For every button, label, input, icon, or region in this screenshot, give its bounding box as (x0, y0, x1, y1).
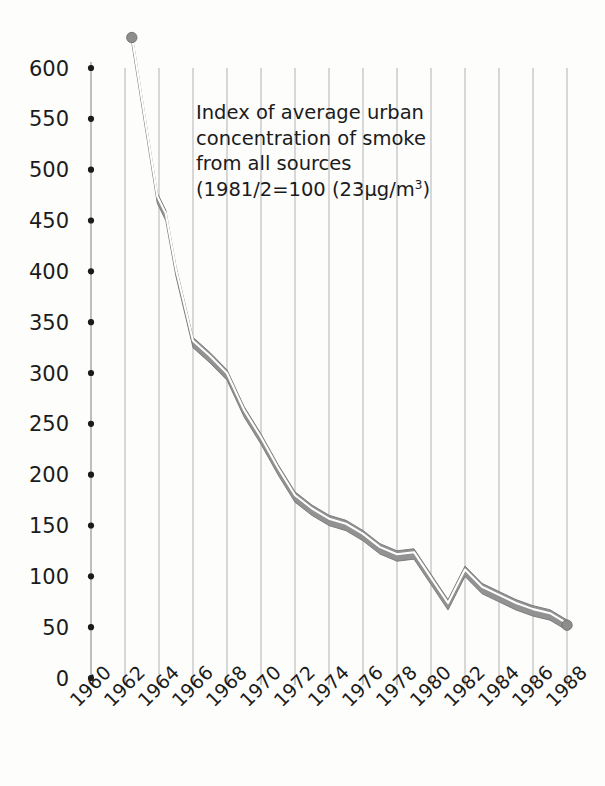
y-tick-dot-50 (88, 624, 94, 630)
y-tick-label-150: 150 (29, 514, 69, 538)
y-tick-dot-250 (88, 421, 94, 427)
y-tick-label-600: 600 (29, 57, 69, 81)
chart-root: 600550500450400350300250200150100500 196… (0, 0, 605, 786)
y-tick-label-550: 550 (29, 107, 69, 131)
y-tick-dot-200 (88, 472, 94, 478)
y-tick-dot-350 (88, 319, 94, 325)
y-tick-dot-500 (88, 167, 94, 173)
y-tick-label-50: 50 (42, 616, 69, 640)
y-tick-label-300: 300 (29, 362, 69, 386)
series-start-cap (127, 32, 137, 42)
y-tick-label-450: 450 (29, 209, 69, 233)
series-end-cap (562, 620, 572, 630)
y-tick-dot-450 (88, 217, 94, 223)
y-tick-label-350: 350 (29, 311, 69, 335)
y-tick-label-200: 200 (29, 463, 69, 487)
annotation-line-4: (1981/2=100 (23μg/m3) (196, 178, 430, 201)
annotation-line-1: Index of average urban (196, 101, 424, 124)
y-tick-dot-600 (88, 65, 94, 71)
annotation-line-3: from all sources (196, 152, 351, 175)
y-tick-dot-150 (88, 522, 94, 528)
y-tick-dot-100 (88, 573, 94, 579)
y-tick-label-400: 400 (29, 260, 69, 284)
y-tick-label-0: 0 (56, 667, 69, 691)
y-tick-dot-550 (88, 116, 94, 122)
y-tick-label-500: 500 (29, 158, 69, 182)
annotation-line-2: concentration of smoke (196, 127, 426, 150)
smoke-index-line-chart: 600550500450400350300250200150100500 196… (0, 0, 605, 786)
y-tick-dot-400 (88, 268, 94, 274)
y-tick-dot-300 (88, 370, 94, 376)
y-tick-label-250: 250 (29, 412, 69, 436)
y-tick-label-100: 100 (29, 565, 69, 589)
